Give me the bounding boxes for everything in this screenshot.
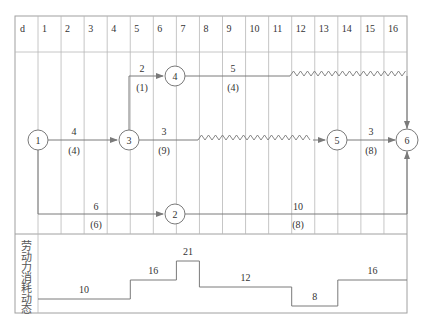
day-header-10: 10 bbox=[250, 23, 260, 34]
activity-4-6-resource: (4) bbox=[227, 82, 239, 94]
time-scaled-network-diagram: d 12345678910111213141516 2 (1) 5 (4) 4 … bbox=[0, 0, 431, 326]
activity-3-5-resource: (9) bbox=[158, 145, 170, 157]
day-header-14: 14 bbox=[342, 23, 352, 34]
day-header-row: 12345678910111213141516 bbox=[42, 23, 398, 34]
day-header-16: 16 bbox=[388, 23, 398, 34]
activity-1-2 bbox=[38, 150, 163, 214]
activity-1-2-duration: 6 bbox=[94, 201, 99, 212]
day-header-3: 3 bbox=[88, 23, 93, 34]
labor-label-char: 态 bbox=[21, 303, 32, 316]
node-6-label: 6 bbox=[405, 135, 410, 146]
activity-1-3-duration: 4 bbox=[72, 126, 77, 137]
activity-3-5-duration: 3 bbox=[162, 126, 167, 137]
node-4-label: 4 bbox=[173, 71, 178, 82]
day-header-12: 12 bbox=[296, 23, 306, 34]
activity-2-6-duration: 10 bbox=[293, 201, 303, 212]
labor-value-3: 12 bbox=[241, 272, 251, 283]
activity-3-4-resource: (1) bbox=[136, 82, 148, 94]
node-6: 6 bbox=[396, 129, 418, 151]
day-header-2: 2 bbox=[65, 23, 70, 34]
day-grid-lines bbox=[61, 16, 384, 234]
day-header-8: 8 bbox=[203, 23, 208, 34]
diagram-frame bbox=[15, 16, 407, 313]
day-header-4: 4 bbox=[111, 23, 116, 34]
activity-2-6-resource: (8) bbox=[292, 219, 304, 231]
labor-chart-label: 劳动力消耗动态 bbox=[21, 240, 32, 316]
day-header-11: 11 bbox=[273, 23, 283, 34]
activity-4-6-duration: 5 bbox=[231, 63, 236, 74]
activity-1-2-resource: (6) bbox=[90, 219, 102, 231]
node-2-label: 2 bbox=[173, 209, 178, 220]
activity-1-3-resource: (4) bbox=[68, 145, 80, 157]
node-5: 5 bbox=[327, 130, 347, 150]
labor-value-0: 10 bbox=[79, 284, 89, 295]
free-float-wave-3-5 bbox=[198, 135, 310, 140]
activity-5-6-duration: 3 bbox=[369, 126, 374, 137]
day-header-7: 7 bbox=[180, 23, 185, 34]
day-header-15: 15 bbox=[365, 23, 375, 34]
labor-value-5: 16 bbox=[367, 265, 377, 276]
day-header-9: 9 bbox=[227, 23, 232, 34]
day-header-13: 13 bbox=[319, 23, 329, 34]
labor-values: 10162112816 bbox=[79, 246, 377, 302]
activity-5-6-resource: (8) bbox=[365, 145, 377, 157]
node-2: 2 bbox=[165, 204, 185, 224]
free-float-wave-4-6 bbox=[290, 71, 406, 76]
labor-value-2: 21 bbox=[183, 246, 193, 257]
node-3-label: 3 bbox=[127, 135, 132, 146]
node-5-label: 5 bbox=[335, 135, 340, 146]
node-3: 3 bbox=[119, 130, 139, 150]
activity-3-4-duration: 2 bbox=[140, 63, 145, 74]
day-header-5: 5 bbox=[134, 23, 139, 34]
node-4: 4 bbox=[165, 66, 185, 86]
node-1: 1 bbox=[28, 130, 48, 150]
labor-value-1: 16 bbox=[148, 265, 158, 276]
node-1-label: 1 bbox=[36, 135, 41, 146]
day-header-1: 1 bbox=[42, 23, 47, 34]
unit-label: d bbox=[20, 23, 25, 34]
labor-step-line bbox=[38, 261, 407, 306]
day-header-6: 6 bbox=[157, 23, 162, 34]
labor-value-4: 8 bbox=[312, 291, 317, 302]
